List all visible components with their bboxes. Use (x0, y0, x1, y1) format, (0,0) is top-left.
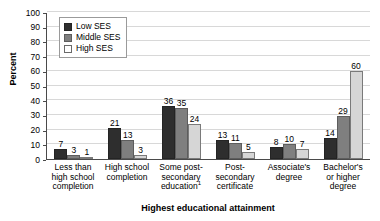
bar-value-label: 8 (274, 138, 279, 147)
y-tick-mark (43, 57, 46, 58)
legend-swatch-icon (64, 23, 72, 31)
category-label: Less thanhigh schoolcompletion (46, 163, 100, 192)
bar[interactable]: 35 (175, 108, 188, 159)
bar[interactable]: 3 (134, 155, 147, 159)
bar-group: 142960 (316, 13, 370, 159)
bar-value-label: 11 (231, 134, 240, 143)
legend-item-low-ses: Low SES (64, 21, 120, 32)
bar-slot: 36 (162, 13, 175, 159)
bar-value-label: 5 (246, 143, 251, 152)
bar-value-label: 14 (325, 129, 334, 138)
y-tick-mark (43, 28, 46, 29)
legend-swatch-icon (64, 45, 72, 53)
bar-slot: 29 (337, 13, 350, 159)
bar-group: 13115 (208, 13, 262, 159)
bar-slot: 35 (175, 13, 188, 159)
plot-area: 73121133363524131158107142960 Low SES Mi… (46, 13, 370, 160)
bar-value-label: 13 (123, 131, 132, 140)
bar-slot: 8 (270, 13, 283, 159)
y-tick-label: 80 (14, 38, 40, 46)
bar[interactable]: 13 (216, 140, 229, 159)
y-tick-mark (43, 131, 46, 132)
bar-value-label: 1 (85, 148, 90, 157)
y-tick-mark (43, 87, 46, 88)
bar-value-label: 7 (300, 140, 305, 149)
bar-slot: 11 (229, 13, 242, 159)
bar[interactable]: 13 (121, 140, 134, 159)
legend-item-middle-ses: Middle SES (64, 32, 120, 43)
bar[interactable]: 60 (350, 71, 363, 159)
bar[interactable]: 29 (337, 116, 350, 159)
bar-value-label: 10 (284, 135, 293, 144)
bar-value-label: 3 (72, 146, 77, 155)
bar[interactable]: 14 (324, 138, 337, 159)
bar-slot: 13 (216, 13, 229, 159)
category-label: Bachelor'sor higherdegree (316, 163, 370, 192)
bar[interactable]: 36 (162, 106, 175, 159)
y-tick-label: 10 (14, 141, 40, 149)
bar-value-label: 29 (338, 107, 347, 116)
bar-value-label: 3 (138, 146, 143, 155)
category-label: Post-secondarycertificate (208, 163, 262, 192)
y-tick-mark (43, 72, 46, 73)
gridline (47, 11, 370, 12)
y-tick-label: 70 (14, 53, 40, 61)
legend-label: High SES (76, 44, 113, 53)
bar-slot: 10 (283, 13, 296, 159)
y-tick-label: 50 (14, 82, 40, 90)
y-tick-mark (43, 42, 46, 43)
bar-slot: 24 (188, 13, 201, 159)
x-axis-category-labels: Less thanhigh schoolcompletionHigh schoo… (46, 163, 370, 192)
y-tick-label: 60 (14, 67, 40, 75)
bar-slot: 5 (242, 13, 255, 159)
x-axis-title: Highest educational attainment (46, 203, 370, 213)
bar-slot: 7 (296, 13, 309, 159)
bar-group: 8107 (262, 13, 316, 159)
bar-slot: 14 (324, 13, 337, 159)
bar-value-label: 35 (177, 99, 186, 108)
bar-value-label: 7 (59, 140, 64, 149)
y-tick-label: 100 (14, 9, 40, 17)
bar[interactable]: 24 (188, 124, 201, 159)
y-tick-label: 0 (14, 156, 40, 164)
y-tick-mark (43, 13, 46, 14)
legend-label: Middle SES (76, 33, 120, 42)
bar[interactable]: 8 (270, 147, 283, 159)
y-tick-mark (43, 145, 46, 146)
bar[interactable]: 10 (283, 144, 296, 159)
bar-chart: Percent 73121133363524131158107142960 Lo… (0, 0, 380, 221)
y-tick-mark (43, 101, 46, 102)
bar[interactable]: 7 (54, 149, 67, 159)
y-tick-mark (43, 160, 46, 161)
y-tick-label: 40 (14, 97, 40, 105)
bar-value-label: 24 (190, 115, 199, 124)
bar-value-label: 21 (110, 119, 119, 128)
bar[interactable]: 5 (242, 152, 255, 159)
bar[interactable]: 1 (80, 157, 93, 159)
bar[interactable]: 7 (296, 149, 309, 159)
legend: Low SES Middle SES High SES (59, 17, 127, 58)
bar-value-label: 36 (164, 97, 173, 106)
category-label: High schoolcompletion (100, 163, 154, 192)
bar[interactable]: 21 (108, 128, 121, 159)
y-tick-mark (43, 116, 46, 117)
bar[interactable]: 3 (67, 155, 80, 159)
legend-swatch-icon (64, 34, 72, 42)
y-tick-label: 30 (14, 111, 40, 119)
bar-value-label: 13 (218, 131, 227, 140)
category-label: Some post-secondaryeducation1 (154, 163, 208, 192)
bar-slot: 60 (350, 13, 363, 159)
legend-label: Low SES (76, 22, 111, 31)
category-label: Associate'sdegree (262, 163, 316, 192)
legend-item-high-ses: High SES (64, 43, 120, 54)
bar[interactable]: 11 (229, 143, 242, 159)
y-tick-label: 20 (14, 126, 40, 134)
y-tick-label: 90 (14, 23, 40, 31)
bar-slot: 3 (134, 13, 147, 159)
bar-value-label: 60 (351, 62, 360, 71)
bar-group: 363524 (155, 13, 209, 159)
